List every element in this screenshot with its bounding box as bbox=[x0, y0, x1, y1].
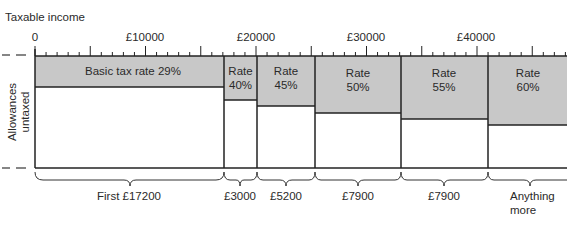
band-label-50-line1: Rate bbox=[346, 67, 370, 79]
band-label-55-line1: Rate bbox=[432, 67, 456, 79]
width-label-50: £7900 bbox=[342, 190, 374, 202]
band-label-50-line2: 50% bbox=[346, 81, 369, 93]
side-label: Allowances untaxed bbox=[6, 83, 31, 141]
tick-label-10000: £10000 bbox=[126, 31, 164, 43]
tick-label-30000: £30000 bbox=[347, 31, 385, 43]
band-label-40-line1: Rate bbox=[228, 65, 252, 77]
band-label-45-line1: Rate bbox=[274, 65, 298, 77]
side-label-line1: Allowances bbox=[6, 83, 18, 141]
band-label-60-line2: 60% bbox=[516, 81, 539, 93]
tick-label-20000: £20000 bbox=[237, 31, 275, 43]
width-label-40: £3000 bbox=[224, 190, 256, 202]
band-label-40-line2: 40% bbox=[229, 79, 252, 91]
width-label-basic: First £17200 bbox=[97, 190, 161, 202]
tax-band-diagram: Taxable income 0 £10000 £20000 £30000 £4… bbox=[0, 0, 587, 231]
width-label-45: £5200 bbox=[270, 190, 302, 202]
axis-title: Taxable income bbox=[5, 11, 85, 23]
width-braces bbox=[35, 172, 567, 186]
width-label-60-line1: Anything bbox=[510, 190, 555, 202]
band-label-basic: Basic tax rate 29% bbox=[85, 65, 181, 77]
tick-label-0: 0 bbox=[32, 31, 38, 43]
tick-label-40000: £40000 bbox=[457, 31, 495, 43]
band-label-60-line1: Rate bbox=[516, 67, 540, 79]
axis-ticks bbox=[35, 46, 565, 56]
side-label-line2: untaxed bbox=[19, 92, 31, 133]
width-label-55: £7900 bbox=[428, 190, 460, 202]
band-label-55-line2: 55% bbox=[432, 81, 455, 93]
width-label-60-line2: more bbox=[510, 204, 536, 216]
band-label-45-line2: 45% bbox=[274, 79, 297, 91]
